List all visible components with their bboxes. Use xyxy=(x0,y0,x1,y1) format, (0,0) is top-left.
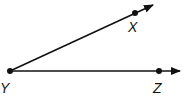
label-y: Y xyxy=(0,80,11,96)
ray-yx xyxy=(10,5,153,71)
label-x: X xyxy=(127,19,138,35)
angle-diagram: X Y Z xyxy=(0,0,185,98)
label-z: Z xyxy=(152,80,162,96)
point-x xyxy=(132,10,138,16)
point-y xyxy=(7,68,13,74)
point-z xyxy=(156,68,162,74)
